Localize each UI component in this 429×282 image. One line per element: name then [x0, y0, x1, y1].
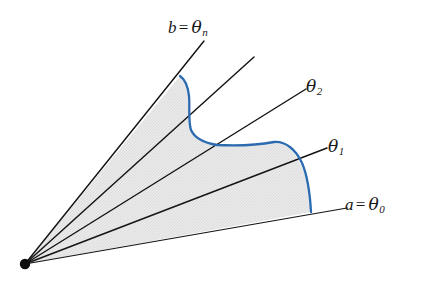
polar-sector-diagram: [0, 0, 429, 282]
label-theta-0-var: a: [345, 195, 354, 214]
label-theta-2-symbol: θ: [306, 76, 316, 96]
label-theta-2-subscript: 2: [317, 85, 323, 97]
figure-root: b=θn θ2 θ1 a=θ0: [0, 0, 429, 282]
label-theta-1-symbol: θ: [328, 136, 338, 156]
origin-vertex-dot: [20, 259, 30, 269]
label-theta-n-symbol: θ: [192, 17, 202, 37]
label-theta-2: θ2: [306, 78, 322, 97]
label-theta-n-equals: =: [179, 18, 189, 37]
label-theta-n: b=θn: [168, 19, 208, 38]
label-theta-0-equals: =: [356, 195, 366, 214]
label-theta-0: a=θ0: [345, 196, 385, 215]
label-theta-1-subscript: 1: [339, 145, 345, 157]
label-theta-0-symbol: θ: [369, 194, 379, 214]
label-theta-0-subscript: 0: [379, 203, 385, 215]
label-theta-n-subscript: n: [202, 26, 208, 38]
label-theta-n-var: b: [168, 18, 177, 37]
label-theta-1: θ1: [328, 138, 344, 157]
